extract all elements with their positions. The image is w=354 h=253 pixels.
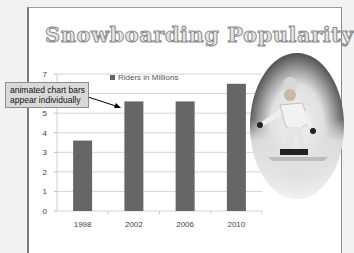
bar-2006 [176,101,195,211]
y-tick-label: 5 [43,109,48,118]
callout-line-2: appear individually [10,95,88,105]
y-tick-label: 1 [43,187,48,196]
y-tick-label: 0 [43,207,48,216]
x-tick-label: 2006 [176,220,194,229]
x-tick-label: 1998 [74,220,92,229]
x-tick-label: 2002 [125,220,143,229]
y-tick-label: 2 [43,168,48,177]
callout-line-1: animated chart bars [10,85,88,95]
snowboarder-photo [250,53,344,199]
y-tick-label: 4 [43,129,48,138]
bar-2010 [227,84,246,211]
snowboarder-figure [250,53,344,199]
bar-2002 [124,101,143,211]
annotation-callout: animated chart bars appear individually [5,82,89,108]
bar-1998 [73,141,92,211]
x-axis-ticks: 1998200220062010 [74,211,262,229]
x-tick-label: 2010 [227,220,245,229]
y-tick-label: 7 [43,70,48,79]
legend-label: Riders in Millions [118,73,178,82]
callout-arrow [88,97,121,108]
legend-swatch [110,75,115,80]
legend: Riders in Millions [110,73,178,82]
y-tick-label: 3 [43,148,48,157]
